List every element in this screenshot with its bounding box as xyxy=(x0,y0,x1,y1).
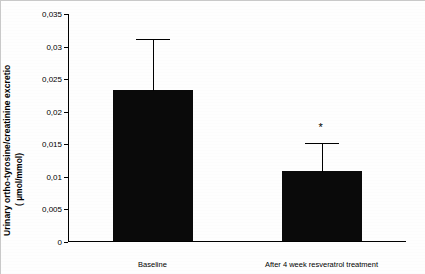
y-tick-mark xyxy=(64,209,68,210)
plot-area: 00,0050,010,0150,020,0250,030,035 * Base… xyxy=(68,14,406,242)
y-tick-mark xyxy=(64,177,68,178)
y-axis-line xyxy=(68,14,69,242)
y-tick-label: 0,01 xyxy=(46,172,62,181)
y-tick-label: 0 xyxy=(58,238,62,247)
y-axis-title-line2: ( µmol/mmol) xyxy=(14,153,24,206)
y-tick-mark xyxy=(64,47,68,48)
category-label: Baseline xyxy=(68,260,237,269)
y-tick-mark xyxy=(64,242,68,243)
error-bar-line xyxy=(153,40,154,91)
error-bar-line xyxy=(322,144,323,172)
y-tick-label: 0,005 xyxy=(42,205,62,214)
bar xyxy=(282,171,362,241)
category-label: After 4 week resveratrol treatment xyxy=(237,260,406,269)
error-bar-cap xyxy=(305,143,339,144)
chart-figure: Urinary ortho-tyrosine/creatinine excret… xyxy=(0,0,425,274)
y-tick-label: 0,035 xyxy=(42,10,62,19)
y-tick-label: 0,02 xyxy=(46,107,62,116)
y-axis-title-line1: Urinary ortho-tyrosine/creatinine excret… xyxy=(2,65,12,236)
y-tick-mark xyxy=(64,14,68,15)
y-tick-label: 0,025 xyxy=(42,75,62,84)
y-tick-mark xyxy=(64,79,68,80)
y-tick-mark xyxy=(64,144,68,145)
significance-marker: * xyxy=(319,122,323,133)
y-tick-label: 0,015 xyxy=(42,140,62,149)
y-axis-title: Urinary ortho-tyrosine/creatinine excret… xyxy=(2,0,32,250)
error-bar-cap xyxy=(136,39,170,40)
y-tick-label: 0,03 xyxy=(46,42,62,51)
x-axis-line xyxy=(68,241,406,242)
bar xyxy=(113,90,193,241)
y-tick-mark xyxy=(64,112,68,113)
